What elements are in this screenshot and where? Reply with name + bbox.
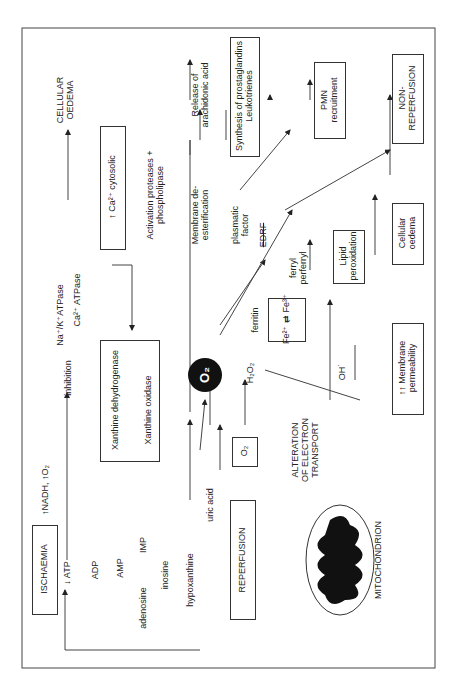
o2-label: O₂: [239, 446, 249, 457]
ferryl-label: ferryl perferryl: [288, 246, 308, 291]
ischaemia-label: ISCHAEMIA: [39, 544, 49, 594]
caatp-label: Ca²⁺ ATPase: [72, 274, 82, 327]
reperfusion-label: REPERFUSION: [237, 527, 247, 592]
oh-label: OH˙: [337, 364, 347, 381]
imp-label: IMP: [138, 537, 148, 553]
nonreperfusion-label: NON-REPERFUSION: [397, 58, 417, 138]
hypoxanthine-label: hypoxanthine: [185, 553, 195, 607]
fe-label: Fe²⁺ ⇄ Fe³⁺: [281, 294, 291, 344]
ferritin-label: ferritin: [250, 307, 260, 332]
inhibition-label: inhibition: [63, 360, 73, 396]
h2o2-label: H₂O₂: [245, 363, 255, 384]
adp-label: ADP: [90, 561, 100, 580]
superoxide-label: O₂: [200, 367, 210, 383]
xdh-label: Xanthine dehydrogenase: [110, 350, 120, 450]
activation-label: Activation proteases + phospholipase: [145, 145, 165, 245]
diagram: ISCHAEMIA ↑NADH, ↑O₂ ↓ ATP ADP AMP IMP a…: [0, 0, 475, 695]
nadh-label: ↑NADH, ↑O₂: [40, 465, 50, 515]
nak-label: Na⁺/K⁺ATPase: [55, 284, 65, 345]
mitochondrion-label: MITOCHONDRION: [373, 521, 383, 599]
xo-label: Xanthine oxidase: [143, 375, 153, 444]
uric-acid-label: uric acid: [205, 488, 215, 522]
amp-label: AMP: [115, 558, 125, 578]
membrane-perm-label: ↑↑ Membrane permeability: [397, 328, 417, 408]
cellular-oedema-label: Cellular oedema: [397, 208, 417, 258]
adenosine-label: adenosine: [138, 587, 148, 629]
release-label: Release of arachidonic acid: [190, 50, 210, 140]
lipid-label: Lipid peroxidation: [338, 229, 358, 284]
cellular-oedema-top: CELLULAR OEDEMA: [55, 73, 75, 128]
pmn-label: PMN recruitment: [319, 70, 339, 130]
synthesis-label: Synthesis of prostaglandins Leukotrienes: [234, 39, 254, 154]
alteration-label: ALTERATION OF ELECTRON TRANSPORT: [290, 415, 320, 485]
edrf-label: EDRF: [258, 223, 268, 248]
plasmatic-label: plasmatic factor: [230, 205, 250, 245]
membrane-deest-label: Membrane de-esterification: [190, 173, 210, 258]
atp-label: ↓ ATP: [62, 561, 72, 584]
inosine-label: inosine: [160, 561, 170, 590]
ca-label: ↑ Ca²⁺ cytosolic: [107, 155, 117, 219]
